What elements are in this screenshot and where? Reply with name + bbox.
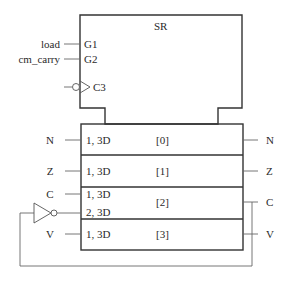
cell-1-dependency-label: 1, 3D	[86, 165, 111, 177]
g2-pin-label: G2	[84, 53, 97, 65]
cell-1-output-label: Z	[266, 165, 273, 177]
shift-register-diagram: SR load G1 cm_carry G2 C3 N 1, 3D [0] N …	[0, 0, 288, 284]
c3-pin-label: C3	[93, 81, 106, 93]
cell-3-index: [3]	[156, 228, 169, 240]
cell-3-dependency-label: 1, 3D	[86, 228, 111, 240]
clock-triangle-icon	[80, 81, 90, 93]
cell-3-input-label: V	[46, 228, 54, 240]
cell-0-input-label: N	[46, 134, 54, 146]
cell-1-index: [1]	[156, 165, 169, 177]
cell-2-index: [2]	[156, 196, 169, 208]
g1-pin-label: G1	[84, 38, 97, 50]
control-block-title: SR	[154, 20, 168, 32]
load-signal-label: load	[41, 38, 60, 50]
cell-2-output-label: C	[266, 196, 273, 208]
cell-0-index: [0]	[156, 134, 169, 146]
cell-2-dependency-label-2: 2, 3D	[86, 206, 111, 218]
cell-3-output-label: V	[266, 228, 274, 240]
cell-1-input-label: Z	[47, 165, 54, 177]
register-cell-3: V 1, 3D [3] V	[46, 228, 274, 240]
inverter-triangle-icon	[34, 203, 51, 223]
cell-0-dependency-label: 1, 3D	[86, 134, 111, 146]
cell-0-output-label: N	[266, 134, 274, 146]
inverter-bubble-icon	[51, 210, 57, 216]
clock-inversion-bubble-icon	[73, 84, 80, 91]
cm-carry-signal-label: cm_carry	[18, 53, 60, 65]
register-cell-0: N 1, 3D [0] N	[46, 134, 274, 146]
cell-2-input-label: C	[46, 188, 53, 200]
cell-2-dependency-label-1: 1, 3D	[86, 188, 111, 200]
